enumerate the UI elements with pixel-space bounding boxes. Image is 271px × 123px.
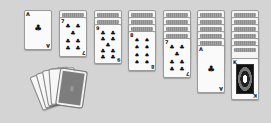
club-icon: ♣ bbox=[74, 23, 82, 29]
club-icon: ♣ bbox=[198, 65, 224, 74]
card-rank: 9 bbox=[117, 57, 120, 62]
tableau-pile-3[interactable]: 9 ♣ ♣ ♣ ♣ ♣ ♣ ♣ ♣ ♣ 9 bbox=[94, 10, 122, 64]
club-icon: ♣ bbox=[178, 44, 186, 50]
club-icon: ♣ bbox=[168, 51, 186, 57]
club-icon: ♣ bbox=[64, 30, 82, 36]
card-rank: 8 bbox=[151, 64, 154, 69]
tableau-pile-2[interactable]: 7 ♣ ♣ ♣ ♣ ♣ ♣ ♣ 7 bbox=[59, 10, 87, 56]
king-face-icon bbox=[236, 64, 254, 94]
spade-icon: ♠ bbox=[143, 59, 151, 65]
tableau-pile-4[interactable]: 8 ♠ ♠ ♠ ♠ ♠ ♠ ♠ ♠ 8 bbox=[128, 10, 156, 71]
card-rank: K bbox=[253, 93, 257, 98]
card-rank: 7 bbox=[186, 71, 189, 76]
card-nine-clubs[interactable]: 9 ♣ ♣ ♣ ♣ ♣ ♣ ♣ ♣ ♣ 9 bbox=[94, 24, 122, 64]
card-rank: A bbox=[219, 86, 223, 91]
club-icon: ♣ bbox=[168, 66, 176, 72]
spade-icon: ♠ bbox=[143, 37, 151, 43]
club-icon: ♣ bbox=[74, 45, 82, 51]
card-rank: A bbox=[46, 43, 50, 48]
card-king-spades[interactable]: K K bbox=[231, 58, 259, 100]
foundation-pile[interactable]: A ♣ A bbox=[24, 10, 52, 50]
tableau-pile-6[interactable]: A ♣ A bbox=[197, 10, 225, 85]
game-board: A ♣ A 7 ♣ ♣ ♣ ♣ ♣ ♣ ♣ 7 9 ♣ bbox=[0, 0, 271, 123]
club-icon: ♣ bbox=[99, 54, 107, 60]
pips: ♣ ♣ ♣ ♣ ♣ ♣ ♣ ♣ ♣ bbox=[99, 30, 117, 58]
pips: ♠ ♠ ♠ ♠ ♠ ♠ ♠ ♠ bbox=[133, 37, 151, 65]
card-ace-clubs[interactable]: A ♣ A bbox=[197, 45, 225, 93]
spade-icon: ♠ bbox=[133, 52, 141, 58]
stock-pile[interactable] bbox=[38, 64, 88, 114]
club-icon: ♣ bbox=[25, 24, 51, 33]
stock-top-card[interactable] bbox=[56, 69, 87, 108]
spade-icon: ♠ bbox=[133, 59, 141, 65]
club-icon: ♣ bbox=[178, 66, 186, 72]
spade-icon: ♠ bbox=[133, 44, 141, 50]
pips: ♣ ♣ ♣ ♣ ♣ ♣ ♣ bbox=[168, 44, 186, 72]
club-icon: ♣ bbox=[168, 44, 176, 50]
spade-icon: ♠ bbox=[143, 52, 151, 58]
card-eight-spades[interactable]: 8 ♠ ♠ ♠ ♠ ♠ ♠ ♠ ♠ 8 bbox=[128, 31, 156, 71]
card-seven-clubs[interactable]: 7 ♣ ♣ ♣ ♣ ♣ ♣ ♣ 7 bbox=[163, 38, 191, 78]
card-ace-clubs[interactable]: A ♣ A bbox=[24, 10, 52, 50]
card-rank: 7 bbox=[82, 50, 85, 55]
club-icon: ♣ bbox=[178, 59, 186, 65]
club-icon: ♣ bbox=[168, 59, 176, 65]
club-icon: ♣ bbox=[64, 45, 72, 51]
club-icon: ♣ bbox=[64, 38, 72, 44]
card-rank: A bbox=[199, 47, 203, 52]
spade-icon: ♠ bbox=[143, 44, 151, 50]
card-seven-clubs[interactable]: 7 ♣ ♣ ♣ ♣ ♣ ♣ ♣ 7 bbox=[59, 17, 87, 57]
spade-icon: ♠ bbox=[133, 37, 141, 43]
club-icon: ♣ bbox=[74, 38, 82, 44]
club-icon: ♣ bbox=[64, 23, 72, 29]
card-rank: A bbox=[26, 12, 30, 17]
tableau-pile-7[interactable]: K K bbox=[231, 10, 259, 100]
club-icon: ♣ bbox=[109, 54, 117, 60]
pips: ♣ ♣ ♣ ♣ ♣ ♣ ♣ bbox=[64, 23, 82, 51]
tableau-pile-5[interactable]: 7 ♣ ♣ ♣ ♣ ♣ ♣ ♣ 7 bbox=[163, 10, 191, 78]
